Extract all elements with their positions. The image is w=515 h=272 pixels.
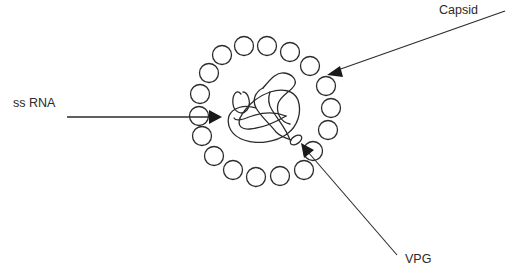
vpg-label: VPG: [405, 252, 431, 266]
capsid-subunit: [190, 107, 209, 126]
capsid-subunit: [319, 121, 338, 140]
vpg-protein: [288, 133, 303, 147]
capsid-subunit: [247, 168, 266, 187]
capsid-subunit: [322, 99, 341, 118]
vpg-arrowhead-icon: [301, 143, 314, 158]
capsid-label: Capsid: [439, 3, 478, 17]
virus-diagram: [0, 0, 515, 272]
vpg-pointer: [301, 143, 397, 255]
capsid-subunit: [224, 161, 243, 180]
capsid-pointer: [327, 11, 505, 77]
capsid-subunit: [317, 77, 336, 96]
capsid-subunit: [200, 64, 219, 83]
capsid-subunit: [205, 147, 224, 166]
vpg-pointer-line: [308, 152, 397, 255]
capsid-pointer-line: [335, 11, 505, 71]
capsid-subunit: [258, 37, 277, 56]
ss-rna-pointer: [67, 110, 222, 124]
capsid-subunit: [235, 37, 254, 56]
capsid-subunit: [281, 43, 300, 62]
ss-rna-arrowhead-icon: [209, 110, 222, 124]
ss-rna-label: ss RNA: [13, 96, 55, 110]
capsid-subunit: [191, 85, 210, 104]
capsid-subunit: [271, 167, 290, 186]
capsid-subunit: [193, 127, 212, 146]
capsid-subunit: [301, 57, 320, 76]
capsid-subunit: [213, 46, 232, 65]
capsid-subunit: [295, 161, 314, 180]
ss-rna-strand: [228, 73, 299, 143]
capsid-arrowhead-icon: [327, 66, 343, 77]
